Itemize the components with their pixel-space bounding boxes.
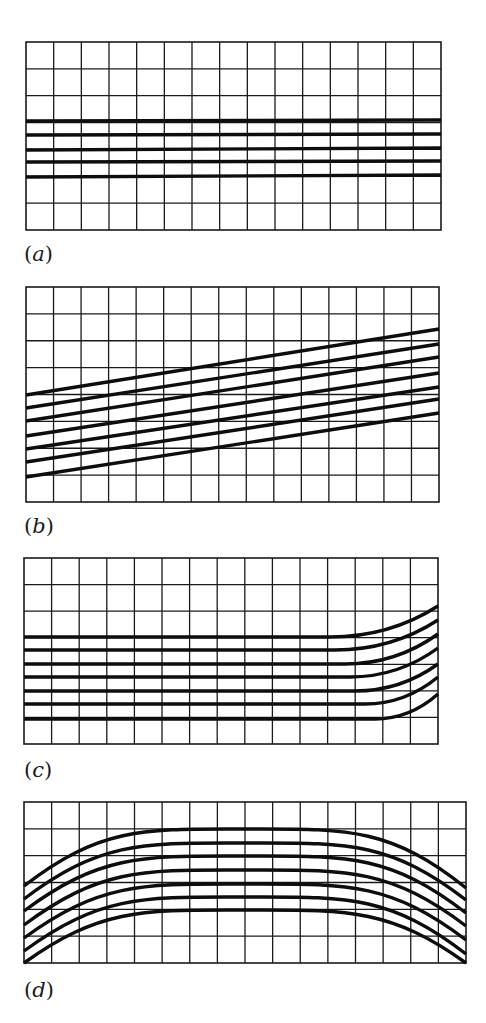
deformed-line xyxy=(26,120,441,121)
deformed-line xyxy=(26,161,441,162)
deformed-line xyxy=(26,329,439,395)
label-letter: a xyxy=(32,242,45,266)
panel-d-arched-lines xyxy=(24,802,466,963)
label-close-paren: ) xyxy=(44,758,52,782)
panel-label-a: (a) xyxy=(24,244,53,265)
panel-label-b: (b) xyxy=(24,516,54,537)
label-letter: b xyxy=(32,514,45,538)
deformed-line xyxy=(26,357,439,421)
deformed-line xyxy=(26,134,441,135)
label-open-paren: ( xyxy=(24,242,32,266)
label-close-paren: ) xyxy=(46,514,54,538)
panel-label-c: (c) xyxy=(24,760,52,781)
deformed-line xyxy=(24,694,438,719)
deformed-line xyxy=(24,620,438,650)
panel-b-sloped-lines xyxy=(26,287,439,502)
deformed-line xyxy=(26,344,439,408)
deformed-line xyxy=(26,399,439,462)
panel-c-bending-lines xyxy=(24,558,438,744)
label-letter: d xyxy=(32,978,45,1002)
label-open-paren: ( xyxy=(24,978,32,1002)
label-close-paren: ) xyxy=(45,242,53,266)
deformed-line xyxy=(26,413,439,477)
deformed-line xyxy=(26,148,441,150)
deformed-line xyxy=(26,387,439,449)
label-letter: c xyxy=(32,758,44,782)
panel-label-d: (d) xyxy=(24,980,54,1001)
label-open-paren: ( xyxy=(24,758,32,782)
deformed-line xyxy=(26,175,441,177)
panel-a-uniform-horizontal-lines xyxy=(26,42,441,230)
label-open-paren: ( xyxy=(24,514,32,538)
deformation-figure xyxy=(0,0,486,1023)
label-close-paren: ) xyxy=(46,978,54,1002)
deformed-line xyxy=(26,373,439,436)
